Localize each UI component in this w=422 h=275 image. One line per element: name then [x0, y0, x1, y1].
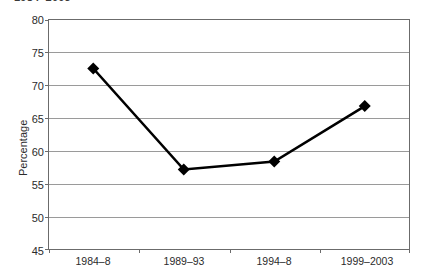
y-tick-mark-60 — [45, 151, 49, 152]
y-tick-mark-70 — [45, 85, 49, 86]
chart-title-clipped: 1984–2003 — [14, 0, 234, 5]
gridline-55 — [49, 184, 409, 185]
x-tick-label-1984-8: 1984–8 — [58, 256, 128, 267]
x-tick-label-1999-2003: 1999–2003 — [324, 256, 410, 267]
y-tick-mark-50 — [45, 217, 49, 218]
gridline-75 — [49, 52, 409, 53]
y-tick-mark-65 — [45, 118, 49, 119]
x-tick-mark-3 — [320, 249, 321, 253]
gridline-70 — [49, 85, 409, 86]
y-tick-mark-75 — [45, 52, 49, 53]
y-tick-label-80: 80 — [12, 15, 44, 26]
gridline-65 — [49, 118, 409, 119]
y-tick-label-70: 70 — [12, 81, 44, 92]
y-tick-mark-80 — [45, 20, 49, 21]
y-tick-label-65: 65 — [12, 114, 44, 125]
y-tick-label-60: 60 — [12, 147, 44, 158]
y-axis-title: Percentage — [4, 98, 22, 178]
x-tick-mark-4 — [409, 249, 410, 253]
x-tick-label-1989-93: 1989–93 — [149, 256, 219, 267]
gridline-50 — [49, 217, 409, 218]
x-tick-label-1994-8: 1994–8 — [239, 256, 309, 267]
x-tick-mark-0 — [49, 249, 50, 253]
y-tick-label-55: 55 — [12, 180, 44, 191]
y-tick-label-75: 75 — [12, 48, 44, 59]
gridline-60 — [49, 151, 409, 152]
y-tick-label-45: 45 — [12, 246, 44, 257]
chart-title-text: 1984–2003 — [14, 0, 234, 3]
x-tick-mark-1 — [139, 249, 140, 253]
plot-area — [48, 19, 410, 250]
chart-screenshot: 1984–2003 Percentage 80 75 70 65 60 55 5… — [0, 0, 422, 275]
y-tick-mark-55 — [45, 184, 49, 185]
x-tick-mark-2 — [230, 249, 231, 253]
y-tick-label-50: 50 — [12, 213, 44, 224]
